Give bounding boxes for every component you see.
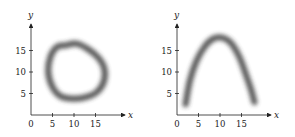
ring-curve <box>48 44 105 99</box>
x-tick-label: 15 <box>90 119 101 129</box>
plot-left: 05101551015 x y <box>15 10 133 129</box>
x-tick-label: 5 <box>50 119 55 129</box>
ticks: 05101551015 <box>161 46 247 130</box>
arch-curve <box>186 37 255 104</box>
y-axis-label: y <box>27 10 34 20</box>
x-tick-label: 0 <box>28 119 33 129</box>
y-tick-label: 5 <box>167 89 172 99</box>
x-tick-label: 0 <box>174 119 179 129</box>
ticks: 05101551015 <box>15 46 101 130</box>
y-tick-label: 10 <box>15 67 26 77</box>
plot-right: 05101551015 x y <box>161 10 279 129</box>
x-axis-label: x <box>128 110 133 120</box>
x-tick-label: 15 <box>236 119 247 129</box>
figure: 05101551015 x y 05101551015 x y <box>0 0 295 137</box>
x-axis-label: x <box>274 110 279 120</box>
y-tick-label: 15 <box>161 46 172 56</box>
y-tick-label: 5 <box>21 89 26 99</box>
x-tick-label: 10 <box>215 119 226 129</box>
charts-svg: 05101551015 x y 05101551015 x y <box>0 0 295 137</box>
y-tick-label: 15 <box>15 46 26 56</box>
y-tick-label: 10 <box>161 67 172 77</box>
y-axis-label: y <box>173 10 180 20</box>
x-tick-label: 10 <box>69 119 80 129</box>
x-tick-label: 5 <box>196 119 201 129</box>
